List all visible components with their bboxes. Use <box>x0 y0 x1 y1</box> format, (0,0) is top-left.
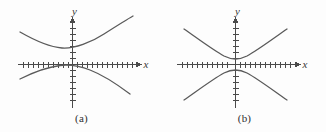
x-axis-label: x <box>143 58 149 70</box>
y-axis-label: y <box>234 5 240 17</box>
figure-root: y x (a) <box>0 0 326 132</box>
panel-a: y x (a) <box>0 0 163 132</box>
curve-upper-branch <box>20 16 133 48</box>
panel-a-caption: (a) <box>0 112 163 124</box>
x-axis-label: x <box>302 58 308 70</box>
panel-b: y x (b) <box>163 0 326 132</box>
y-axis-label: y <box>71 5 77 17</box>
panel-b-caption: (b) <box>163 112 326 124</box>
curve-lower-branch <box>20 65 130 94</box>
